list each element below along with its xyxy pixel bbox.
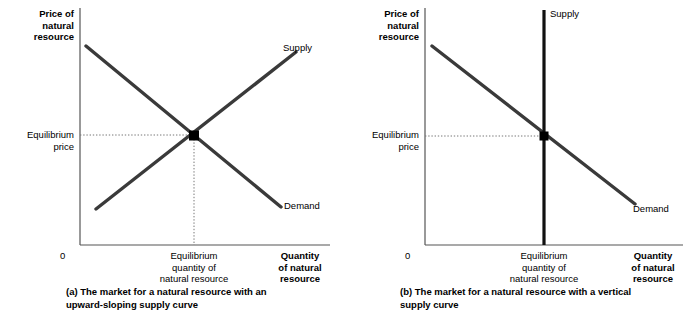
origin-label: 0 [60, 250, 65, 262]
equilibrium-point [540, 132, 549, 141]
demand-curve-label: Demand [633, 203, 669, 215]
y-axis-title: Price of natural resource [2, 8, 74, 43]
origin-label: 0 [405, 250, 410, 262]
x-axis-equilibrium-quantity-label: Equilibrium quantity of natural resource [142, 250, 246, 285]
demand-curve [86, 46, 281, 207]
x-axis-title: Quantity of natural resource [620, 250, 686, 285]
supply-demand-figure: Price of natural resource Equilibrium pr… [0, 0, 690, 323]
demand-curve [432, 46, 635, 204]
x-axis-equilibrium-quantity-label: Equilibrium quantity of natural resource [492, 250, 596, 285]
panel-a-upward-sloping-supply: Price of natural resource Equilibrium pr… [0, 0, 345, 323]
supply-curve-label: Supply [283, 42, 312, 54]
x-axis-title: Quantity of natural resource [267, 250, 333, 285]
y-axis-title: Price of natural resource [347, 8, 419, 43]
supply-curve-label: Supply [550, 8, 579, 20]
demand-curve-label: Demand [284, 200, 320, 212]
equilibrium-point [189, 131, 199, 141]
panel-b-caption: (b) The market for a natural resource wi… [400, 286, 670, 311]
y-axis-equilibrium-price-label: Equilibrium price [2, 129, 74, 152]
y-axis-equilibrium-price-label: Equilibrium price [347, 129, 419, 152]
panel-b-vertical-supply: Price of natural resource Equilibrium pr… [345, 0, 690, 323]
panel-a-caption: (a) The market for a natural resource wi… [66, 286, 316, 311]
